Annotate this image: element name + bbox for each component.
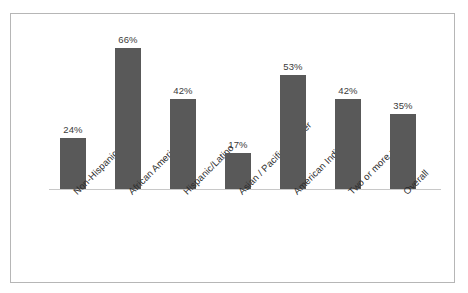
bar-value-label: 66% (100, 34, 156, 45)
bar-value-label: 42% (320, 85, 376, 96)
bar[interactable] (115, 48, 141, 189)
chart-frame: 24% Non-Hispanic white 66% African Ameri… (10, 13, 455, 283)
bar-value-label: 24% (45, 124, 101, 135)
plot-area: 24% Non-Hispanic white 66% African Ameri… (11, 14, 456, 284)
bar[interactable] (170, 99, 196, 189)
bar-value-label: 35% (375, 100, 431, 111)
bar[interactable] (335, 99, 361, 189)
bar-value-label: 53% (265, 61, 321, 72)
bar-value-label: 42% (155, 85, 211, 96)
bar[interactable] (280, 75, 306, 189)
bar-value-label: 17% (210, 139, 266, 150)
